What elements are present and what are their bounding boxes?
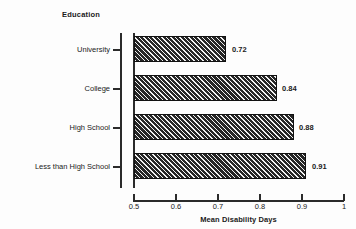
x-tick-0 bbox=[133, 194, 135, 201]
x-tick-label-2: 0.7 bbox=[213, 202, 223, 211]
category-tick-less-than-high-school bbox=[113, 166, 121, 168]
bar-college bbox=[134, 75, 277, 101]
category-tick-college bbox=[113, 88, 121, 90]
category-label-high-school: High School bbox=[70, 123, 110, 132]
bar-less-than-high-school bbox=[134, 153, 306, 179]
x-tick-5 bbox=[343, 194, 345, 201]
value-label-less-than-high-school: 0.91 bbox=[312, 162, 327, 171]
bar-university bbox=[134, 36, 226, 62]
x-tick-label-5: 1 bbox=[342, 202, 346, 211]
x-tick-label-4: 0.9 bbox=[297, 202, 307, 211]
x-axis-line bbox=[133, 200, 344, 202]
x-axis-title: Mean Disability Days bbox=[133, 215, 344, 224]
category-label-university: University bbox=[77, 45, 110, 54]
x-tick-label-3: 0.8 bbox=[255, 202, 265, 211]
value-label-university: 0.72 bbox=[232, 45, 247, 54]
x-tick-label-1: 0.6 bbox=[171, 202, 181, 211]
x-tick-3 bbox=[259, 194, 261, 201]
category-axis-line bbox=[120, 33, 122, 188]
value-label-college: 0.84 bbox=[282, 84, 297, 93]
value-label-high-school: 0.88 bbox=[299, 123, 314, 132]
category-tick-high-school bbox=[113, 127, 121, 129]
chart-group-title: Education bbox=[62, 10, 100, 19]
x-tick-1 bbox=[175, 194, 177, 201]
category-label-college: College bbox=[85, 84, 110, 93]
x-tick-4 bbox=[301, 194, 303, 201]
category-label-less-than-high-school: Less than High School bbox=[35, 162, 110, 171]
category-tick-university bbox=[113, 49, 121, 51]
x-tick-2 bbox=[217, 194, 219, 201]
bar-high-school bbox=[134, 114, 294, 140]
x-tick-label-0: 0.5 bbox=[129, 202, 139, 211]
chart-screenshot: Education University College High School… bbox=[0, 0, 356, 229]
